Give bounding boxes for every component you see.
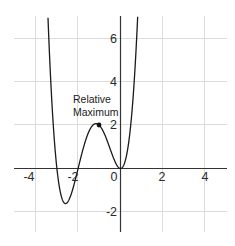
y-tick-label: -2	[106, 205, 117, 219]
x-tick-label: -2	[67, 170, 78, 184]
y-tick-label: 2	[110, 118, 117, 132]
x-tick-label: 2	[159, 170, 166, 184]
y-tick-label: 4	[110, 75, 117, 89]
function-graph: Relative Maximum -4 -2 0 2 4 6 4 2 -2	[0, 0, 235, 246]
annotation-line-1: Relative	[73, 93, 111, 105]
y-tick-label: 6	[110, 32, 117, 46]
annotation-line-2: Maximum	[73, 106, 119, 118]
x-tick-label: -4	[23, 170, 34, 184]
x-tick-label: 0	[111, 170, 118, 184]
x-tick-label: 4	[202, 170, 209, 184]
relative-maximum-point	[97, 123, 102, 128]
